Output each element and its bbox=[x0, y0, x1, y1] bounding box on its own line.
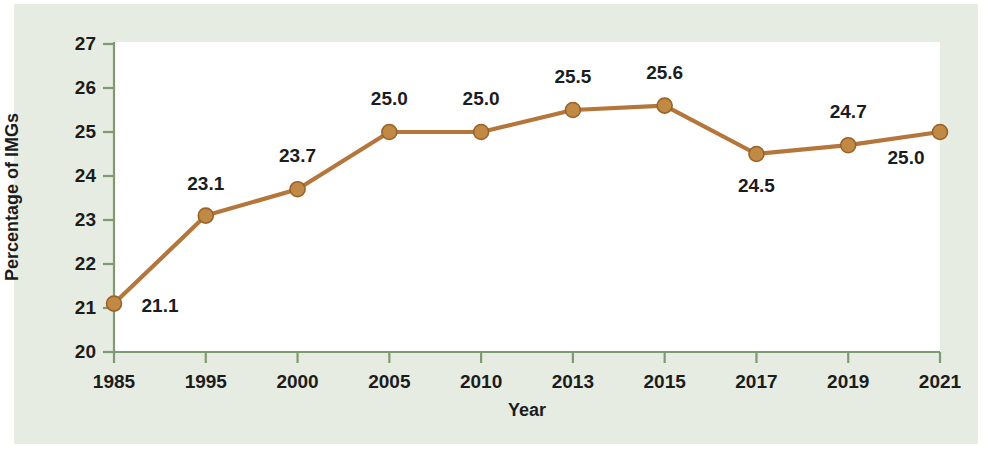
point-value-label: 25.6 bbox=[646, 62, 683, 84]
point-value-label: 24.7 bbox=[830, 101, 867, 123]
x-tick-label: 2005 bbox=[368, 371, 410, 393]
x-tick-label: 2017 bbox=[735, 371, 777, 393]
x-tick-label: 2015 bbox=[644, 371, 686, 393]
x-tick-label: 1985 bbox=[93, 371, 135, 393]
axes bbox=[104, 42, 940, 352]
axis-ticks bbox=[103, 44, 940, 363]
point-value-label: 23.1 bbox=[187, 173, 224, 195]
x-tick-label: 2000 bbox=[276, 371, 318, 393]
y-tick-label: 24 bbox=[52, 165, 96, 187]
data-series-line bbox=[114, 106, 940, 304]
point-value-label: 25.5 bbox=[554, 66, 591, 88]
point-value-label: 25.0 bbox=[888, 147, 925, 169]
x-tick-label: 1995 bbox=[185, 371, 227, 393]
line-chart-graphic bbox=[0, 0, 992, 465]
point-value-label: 24.5 bbox=[738, 175, 775, 197]
chart-figure: 2021222324252627 19851995200020052010201… bbox=[0, 0, 992, 465]
y-tick-label: 25 bbox=[52, 121, 96, 143]
point-value-label: 25.0 bbox=[371, 88, 408, 110]
point-value-label: 25.0 bbox=[463, 88, 500, 110]
x-tick-label: 2013 bbox=[552, 371, 594, 393]
x-tick-label: 2019 bbox=[827, 371, 869, 393]
y-axis-title: Percentage of IMGs bbox=[2, 113, 23, 281]
x-tick-label: 2010 bbox=[460, 371, 502, 393]
y-tick-label: 23 bbox=[52, 209, 96, 231]
point-value-label: 21.1 bbox=[142, 295, 179, 317]
y-tick-label: 26 bbox=[52, 77, 96, 99]
y-tick-label: 27 bbox=[52, 33, 96, 55]
x-axis-title: Year bbox=[508, 400, 546, 421]
y-tick-label: 21 bbox=[52, 297, 96, 319]
y-tick-label: 22 bbox=[52, 253, 96, 275]
data-point-markers bbox=[107, 98, 948, 311]
point-value-label: 23.7 bbox=[279, 145, 316, 167]
y-tick-label: 20 bbox=[52, 341, 96, 363]
x-tick-label: 2021 bbox=[919, 371, 961, 393]
